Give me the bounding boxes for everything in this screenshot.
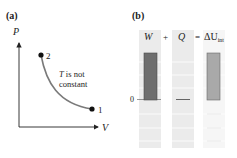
header-plus: + xyxy=(163,32,168,42)
zero-label: 0 xyxy=(130,95,134,104)
annotation-line-1: T is not xyxy=(59,69,85,79)
state-point-1 xyxy=(89,106,94,111)
bar-delta-u xyxy=(207,53,220,100)
state-point-2 xyxy=(38,52,43,57)
panel-a-label: (a) xyxy=(6,10,18,22)
header-delta-u-sub: int xyxy=(218,37,225,43)
panel-b-energy-bar-chart: (b) W + Q = ΔUint 0 xyxy=(130,10,225,148)
annotation-line-2: constant xyxy=(59,79,88,89)
header-q: Q xyxy=(178,31,186,42)
state-point-1-label: 1 xyxy=(98,105,103,115)
header-equals: = xyxy=(195,32,200,42)
x-axis-label: V xyxy=(102,122,110,133)
annotation-line-1-rest: is not xyxy=(64,69,85,79)
bar-w xyxy=(144,53,157,100)
panel-b-label: (b) xyxy=(132,10,144,22)
header-delta-u-main: ΔU xyxy=(204,31,218,42)
column-bg-q xyxy=(172,30,194,148)
figure: (a) P V 2 1 T is not constant (b) xyxy=(0,0,237,158)
state-point-2-label: 2 xyxy=(46,51,51,61)
panel-a-pv-diagram: (a) P V 2 1 T is not constant xyxy=(6,10,110,133)
y-axis-label: P xyxy=(12,26,19,37)
